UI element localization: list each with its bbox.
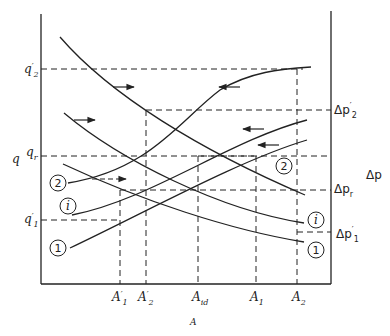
A2-prime-label: A′2 [137, 289, 154, 307]
q1-prime-label: q′1 [24, 211, 39, 229]
arrows [74, 87, 279, 179]
rising-curve-i [72, 120, 307, 215]
falling-curve-2 [60, 37, 305, 195]
axes [41, 11, 331, 284]
rising-2-label: 2 [55, 177, 62, 190]
qr-label: qr [26, 145, 39, 162]
curve-label-text: 2 i 1 2 i 1 [55, 160, 320, 257]
dp2-prime-label: Δp′2 [334, 102, 357, 120]
A1-label: A1 [249, 290, 264, 307]
right-axis-labels: Δp′2 Δp Δpr Δp′1 [334, 102, 382, 244]
dp-axis-title: Δp [366, 168, 382, 182]
dashed-guides [41, 69, 331, 284]
rising-curve-2 [68, 67, 311, 183]
diagram-canvas: 2 i 1 2 i 1 q′2 qr q q′1 Δp′2 Δp Δpr Δp′… [0, 0, 390, 336]
q2-prime-label: q′2 [24, 61, 39, 79]
A2-label: A2 [291, 290, 306, 307]
dp1-prime-label: Δp′1 [336, 226, 359, 244]
A1-prime-label: A′1 [111, 289, 128, 307]
rising-1-label: 1 [55, 242, 62, 255]
falling-2-label: 2 [281, 160, 288, 173]
dp-r-label: Δpr [334, 182, 354, 199]
falling-1-label: 1 [313, 244, 320, 257]
bottom-axis-labels: A′1 A′2 Aid A1 A2 A [111, 289, 306, 327]
A-axis-title: A [189, 317, 197, 327]
rising-i-label: i [66, 199, 70, 213]
curve-labels [50, 158, 324, 258]
q-axis-title: q [12, 152, 20, 166]
left-axis-labels: q′2 qr q q′1 [12, 61, 39, 229]
Aid-label: Aid [191, 290, 208, 307]
falling-curve-i [64, 113, 304, 223]
falling-i-label: i [314, 213, 318, 227]
